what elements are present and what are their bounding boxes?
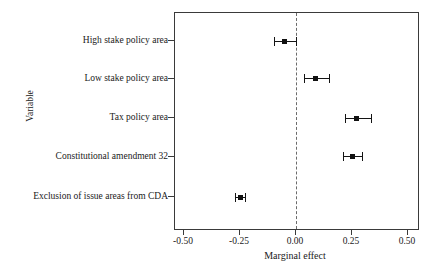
point-estimate-marker <box>354 116 359 121</box>
x-axis-tick-label: -0.50 <box>158 236 208 246</box>
x-axis-tick-mark <box>407 230 408 235</box>
x-axis-title: Marginal effect <box>183 250 407 261</box>
ci-upper-cap <box>296 37 297 46</box>
y-axis-tick-label: Exclusion of issue areas from CDA <box>33 190 168 202</box>
y-axis-tick-mark <box>168 78 174 79</box>
y-axis-tick-label: Tax policy area <box>110 111 168 123</box>
x-axis-tick-mark <box>183 230 184 235</box>
ci-upper-cap <box>329 74 330 83</box>
point-estimate-marker <box>238 195 243 200</box>
x-axis-tick-label: 0.00 <box>270 236 320 246</box>
ci-lower-cap <box>304 74 305 83</box>
point-estimate-marker <box>313 76 318 81</box>
x-axis-tick-label: 0.25 <box>326 236 376 246</box>
ci-upper-cap <box>245 193 246 202</box>
point-estimate-marker <box>282 39 287 44</box>
y-axis-tick-mark <box>168 156 174 157</box>
y-axis-tick-label: Constitutional amendment 32 <box>56 150 168 162</box>
y-axis-tick-mark <box>168 40 174 41</box>
x-axis-tick-mark <box>239 230 240 235</box>
point-estimate-marker <box>350 154 355 159</box>
x-axis-tick-label: -0.25 <box>214 236 264 246</box>
x-axis-tick-mark <box>295 230 296 235</box>
y-axis-tick-mark <box>168 117 174 118</box>
x-axis-tick-label: 0.50 <box>382 236 428 246</box>
y-axis-tick-mark <box>168 196 174 197</box>
y-axis-tick-label: Low stake policy area <box>84 72 168 84</box>
ci-lower-cap <box>235 193 236 202</box>
y-axis-tick-label: High stake policy area <box>83 34 168 46</box>
y-axis-title: Variable <box>20 76 40 136</box>
ci-lower-cap <box>274 37 275 46</box>
coefficient-plot-figure: Variable Marginal effect High stake poli… <box>0 0 428 274</box>
x-axis-tick-mark <box>351 230 352 235</box>
ci-upper-cap <box>371 114 372 123</box>
ci-lower-cap <box>343 152 344 161</box>
ci-upper-cap <box>362 152 363 161</box>
ci-lower-cap <box>345 114 346 123</box>
plot-area <box>174 12 419 230</box>
